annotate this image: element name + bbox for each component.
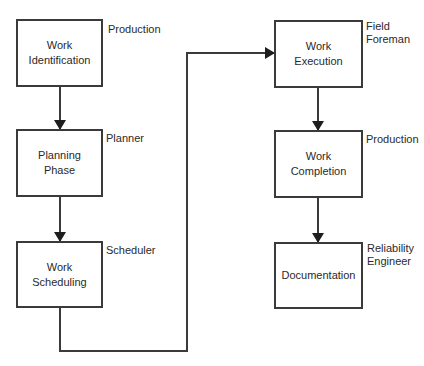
role-label-production-2: Production [366, 133, 419, 146]
node-label: Work Identification [29, 38, 91, 68]
role-label-field-foreman: Field Foreman [366, 20, 410, 46]
node-work-scheduling: Work Scheduling [16, 241, 103, 308]
node-work-identification: Work Identification [16, 19, 103, 87]
node-label: Planning Phase [38, 148, 81, 178]
node-label: Work Scheduling [32, 260, 86, 290]
role-label-reliability-engineer: Reliability Engineer [367, 242, 414, 268]
node-label: Work Completion [291, 149, 347, 179]
node-label: Work Execution [294, 39, 342, 69]
node-documentation: Documentation [274, 242, 363, 309]
node-work-completion: Work Completion [274, 130, 363, 198]
node-label: Documentation [282, 268, 356, 283]
role-label-scheduler: Scheduler [106, 244, 156, 257]
role-label-production: Production [108, 23, 161, 36]
node-planning-phase: Planning Phase [16, 129, 103, 197]
node-work-execution: Work Execution [274, 20, 363, 88]
role-label-planner: Planner [106, 132, 144, 145]
